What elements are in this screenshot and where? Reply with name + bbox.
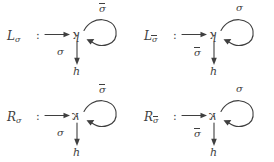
diagram-name-subscript: σ [16, 116, 21, 125]
diagram-name-subscript: σ [153, 116, 158, 125]
source-node-glyph: ʞ [209, 28, 216, 42]
target-node: h [73, 147, 80, 158]
diagram-arrows [137, 0, 274, 81]
source-node-glyph: к [209, 110, 216, 122]
self-loop-path [84, 20, 116, 46]
target-node: h [210, 147, 217, 158]
source-node-R-sigma-bar: к [209, 110, 216, 122]
self-loop-path [221, 20, 253, 46]
self-loop-label: σ [99, 84, 106, 95]
diagram-arrows [0, 0, 137, 81]
diagram-name-subscript: σ [152, 35, 157, 44]
diagram-R-sigma: Rσ:кσσh [0, 81, 137, 162]
diagram-name-subscript: σ [15, 35, 20, 44]
self-loop-arrow-head [87, 39, 95, 45]
diagram-name-base: L [7, 29, 15, 43]
down-arrow-head [74, 58, 80, 65]
source-node-L-sigma: ʞ [72, 29, 79, 41]
source-node-glyph: ʞ [72, 28, 79, 42]
down-arrow-head [211, 139, 217, 146]
figure-canvas: Lσ:ʞσσh Lσ:ʞσσh Rσ:кσσh [0, 0, 274, 162]
diagram-L-sigma-bar: Lσ:ʞσσh [137, 0, 274, 81]
incoming-arrow-head [64, 32, 71, 38]
down-arrow-head [211, 58, 217, 65]
diagram-name-L-sigma: Lσ [7, 30, 20, 44]
diagram-name-R-sigma-bar: Rσ [144, 111, 159, 125]
diagram-name-R-sigma: Rσ [7, 111, 22, 125]
colon-separator: : [173, 111, 177, 122]
self-loop-label: σ [99, 3, 106, 14]
self-loop-path [221, 101, 253, 127]
incoming-arrow-head [201, 32, 208, 38]
target-node: h [210, 66, 217, 77]
source-node-glyph: к [72, 110, 79, 122]
colon-separator: : [36, 111, 40, 122]
self-loop-arrow-head [224, 120, 232, 126]
incoming-arrow-head [64, 113, 71, 119]
self-loop-label: σ [236, 3, 243, 13]
colon-separator: : [173, 30, 177, 41]
diagram-L-sigma: Lσ:ʞσσh [0, 0, 137, 81]
incoming-arrow-head [201, 113, 208, 119]
down-edge-label: σ [57, 47, 64, 57]
diagram-name-L-sigma-bar: Lσ [144, 30, 157, 44]
down-edge-label: σ [194, 47, 201, 58]
self-loop-label: σ [236, 84, 243, 94]
self-loop-arrow-head [224, 39, 232, 45]
source-node-R-sigma: к [72, 110, 79, 122]
target-node: h [73, 66, 80, 77]
down-arrow-head [74, 139, 80, 146]
self-loop-arrow-head [87, 120, 95, 126]
diagram-name-base: R [7, 110, 16, 124]
diagram-R-sigma-bar: Rσ:кσσh [137, 81, 274, 162]
down-edge-label: σ [194, 128, 201, 139]
source-node-L-sigma-bar: ʞ [209, 29, 216, 41]
down-edge-label: σ [57, 128, 64, 138]
self-loop-path [84, 101, 116, 127]
colon-separator: : [36, 30, 40, 41]
